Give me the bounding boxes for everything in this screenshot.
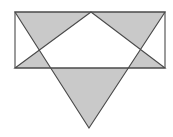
figure-canvas (0, 0, 173, 137)
geometric-figure-svg (0, 0, 173, 137)
shaded-union-path (15, 12, 165, 128)
shaded-regions-group (15, 12, 165, 128)
